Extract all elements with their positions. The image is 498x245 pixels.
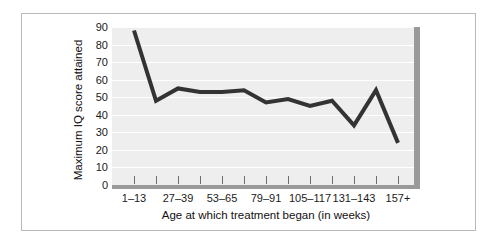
x-tick xyxy=(200,176,201,184)
series-polyline xyxy=(134,31,398,143)
x-tick-label: 105–117 xyxy=(289,192,331,204)
x-tick-label: 157+ xyxy=(386,192,411,204)
y-tick-label: 10 xyxy=(84,162,108,173)
x-tick xyxy=(266,176,267,184)
y-axis-title: Maximum IQ score attained xyxy=(72,15,84,205)
x-tick xyxy=(244,176,245,184)
x-tick xyxy=(398,176,399,184)
y-axis-tick-labels: 0102030405060708090 xyxy=(82,27,108,185)
y-tick-label: 30 xyxy=(84,127,108,138)
x-tick-label: 27–39 xyxy=(163,192,194,204)
x-axis-bar xyxy=(112,185,420,189)
x-tick xyxy=(222,176,223,184)
y-tick-label: 60 xyxy=(84,75,108,86)
x-tick xyxy=(178,176,179,184)
y-tick-label: 20 xyxy=(84,145,108,156)
x-tick xyxy=(354,176,355,184)
x-tick-label: 131–143 xyxy=(333,192,376,204)
y-tick-label: 0 xyxy=(84,180,108,191)
x-axis-ticks xyxy=(112,176,420,185)
x-axis-title: Age at which treatment began (in weeks) xyxy=(112,209,420,221)
y-tick-label: 40 xyxy=(84,110,108,121)
x-tick xyxy=(310,176,311,184)
x-tick-label: 53–65 xyxy=(207,192,238,204)
y-tick-label: 70 xyxy=(84,57,108,68)
chart-figure: 0102030405060708090 Maximum IQ score att… xyxy=(0,0,498,245)
x-tick xyxy=(332,176,333,184)
x-tick-label: 1–13 xyxy=(122,192,146,204)
y-tick-label: 90 xyxy=(84,22,108,33)
x-tick xyxy=(288,176,289,184)
line-series xyxy=(112,27,420,185)
y-tick-label: 80 xyxy=(84,40,108,51)
x-tick xyxy=(376,176,377,184)
y-tick-label: 50 xyxy=(84,92,108,103)
x-axis-tick-labels: 1–1327–3953–6579–91105–117131–143157+ xyxy=(112,192,420,206)
x-tick xyxy=(156,176,157,184)
x-tick-label: 79–91 xyxy=(251,192,282,204)
x-tick xyxy=(134,176,135,184)
